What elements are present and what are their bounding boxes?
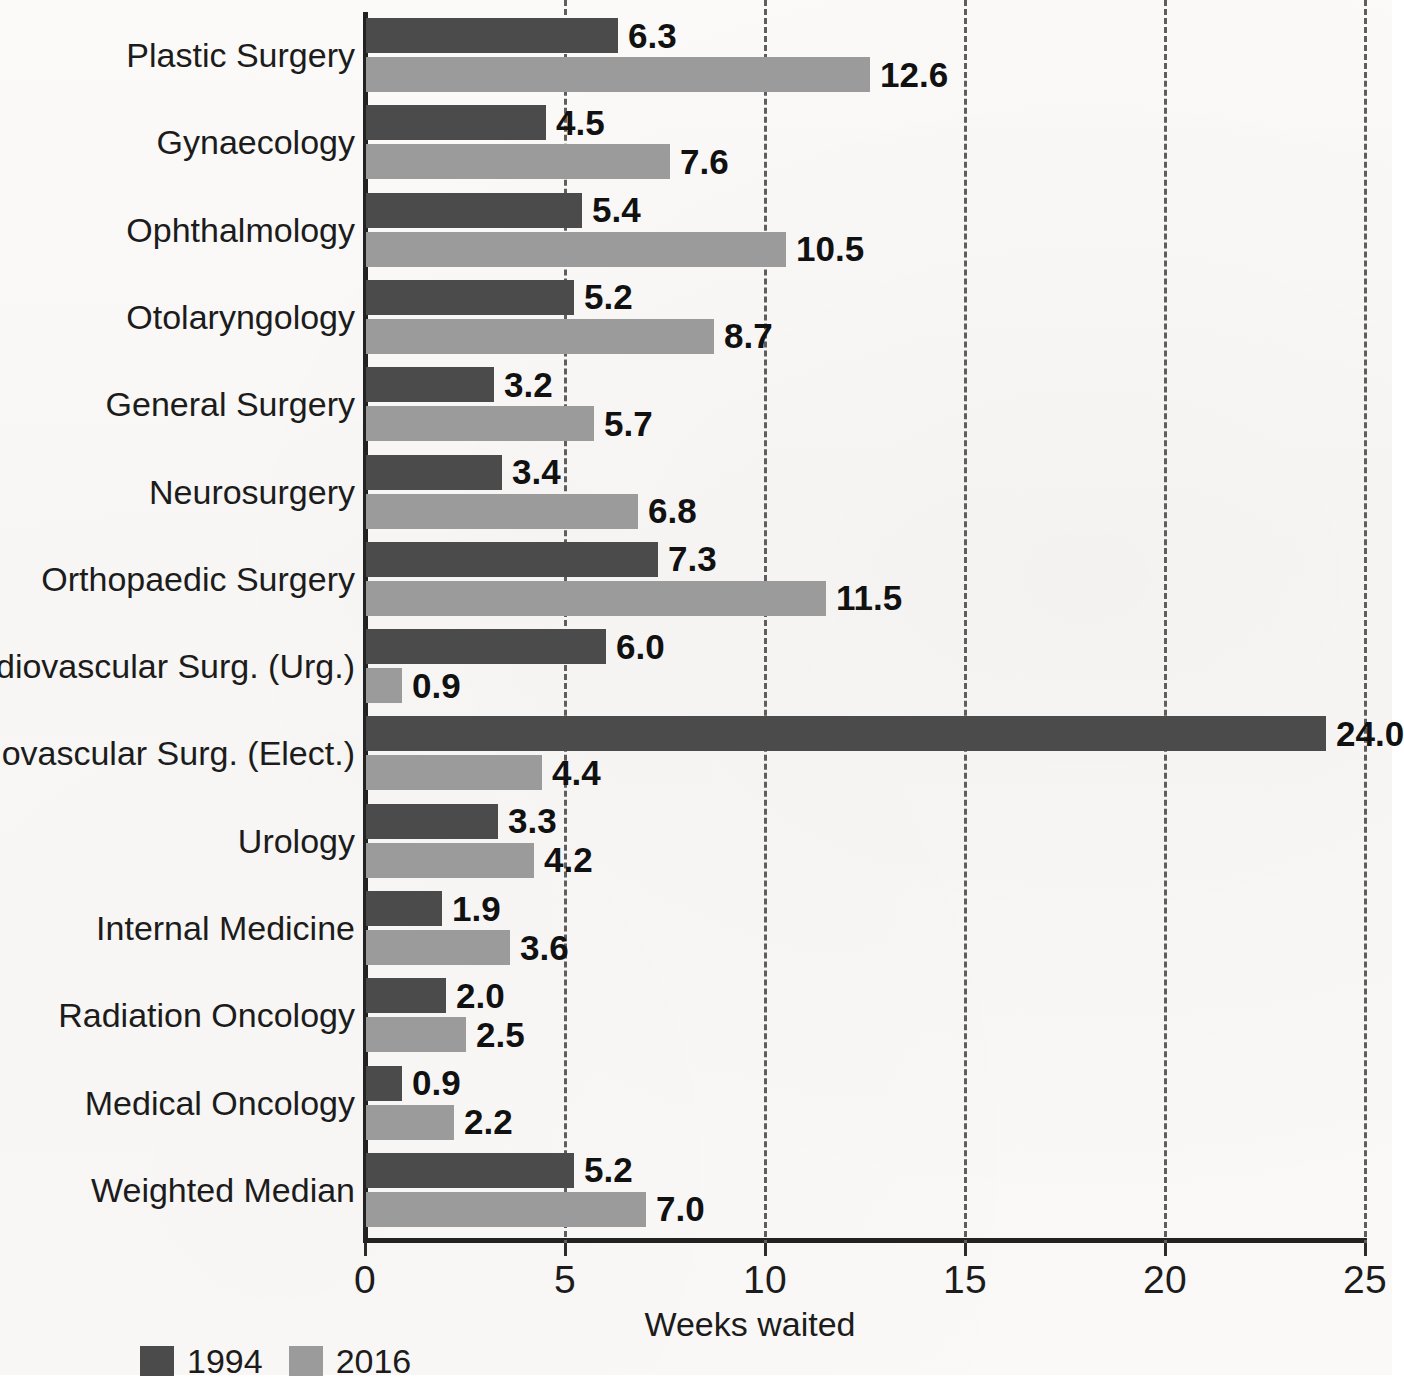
bar-2016 xyxy=(366,1192,646,1227)
legend-swatch xyxy=(289,1346,323,1376)
bar-value-label: 0.9 xyxy=(412,1065,461,1100)
bar-group: Urology3.34.2 xyxy=(0,804,1392,878)
bar-value-label: 12.6 xyxy=(880,57,948,92)
bar-value-label: 4.2 xyxy=(544,842,593,877)
gridline-5 xyxy=(564,0,567,1246)
x-axis-title: Weeks waited xyxy=(0,1305,1392,1344)
bar-1994 xyxy=(366,978,446,1013)
category-label: Plastic Surgery xyxy=(0,38,355,72)
bar-value-label: 3.3 xyxy=(508,803,557,838)
tick-0 xyxy=(364,1243,367,1256)
legend-item[interactable]: 1994 xyxy=(140,1344,263,1378)
category-label: Radiation Oncology xyxy=(0,998,355,1032)
category-label: Neurosurgery xyxy=(0,475,355,509)
bar-group: General Surgery3.25.7 xyxy=(0,367,1392,441)
bar-group: Otolaryngology5.28.7 xyxy=(0,280,1392,354)
bar-value-label: 5.7 xyxy=(604,406,653,441)
bar-group: Plastic Surgery6.312.6 xyxy=(0,18,1392,92)
tick-5 xyxy=(564,1243,567,1256)
x-tick-label: 10 xyxy=(743,1258,787,1302)
bar-value-label: 7.3 xyxy=(668,541,717,576)
bar-1994 xyxy=(366,367,494,402)
bar-1994 xyxy=(366,455,502,490)
bar-2016 xyxy=(366,843,534,878)
bar-2016 xyxy=(366,57,870,92)
bar-value-label: 3.6 xyxy=(520,930,569,965)
category-label: Gynaecology xyxy=(0,125,355,159)
bar-2016 xyxy=(366,319,714,354)
bar-1994 xyxy=(366,542,658,577)
x-tick-label: 20 xyxy=(1143,1258,1187,1302)
bar-group: Cardiovascular Surg. (Elect.)24.04.4 xyxy=(0,716,1392,790)
x-tick-label: 5 xyxy=(554,1258,576,1302)
bar-value-label: 3.2 xyxy=(504,367,553,402)
bar-group: Cardiovascular Surg. (Urg.)6.00.9 xyxy=(0,629,1392,703)
bar-value-label: 7.0 xyxy=(656,1191,705,1226)
bar-group: Neurosurgery3.46.8 xyxy=(0,455,1392,529)
gridline-20 xyxy=(1164,0,1167,1246)
category-label: Internal Medicine xyxy=(0,911,355,945)
bar-group: Medical Oncology0.92.2 xyxy=(0,1066,1392,1140)
bar-value-label: 24.0 xyxy=(1336,716,1404,751)
bar-1994 xyxy=(366,1153,574,1188)
bar-value-label: 5.4 xyxy=(592,192,641,227)
bar-value-label: 10.5 xyxy=(796,231,864,266)
legend-swatch xyxy=(140,1346,174,1376)
bar-1994 xyxy=(366,629,606,664)
category-label: Urology xyxy=(0,824,355,858)
bar-1994 xyxy=(366,280,574,315)
category-label: Cardiovascular Surg. (Elect.) xyxy=(0,736,355,770)
bar-value-label: 5.2 xyxy=(584,1152,633,1187)
category-label: Weighted Median xyxy=(0,1173,355,1207)
bar-1994 xyxy=(366,891,442,926)
x-tick-label: 0 xyxy=(354,1258,376,1302)
category-label: Otolaryngology xyxy=(0,300,355,334)
gridline-15 xyxy=(964,0,967,1246)
gridline-10 xyxy=(764,0,767,1246)
bar-1994 xyxy=(366,105,546,140)
bar-group: Radiation Oncology2.02.5 xyxy=(0,978,1392,1052)
bar-value-label: 6.8 xyxy=(648,493,697,528)
tick-15 xyxy=(964,1243,967,1256)
bar-value-label: 1.9 xyxy=(452,891,501,926)
bar-2016 xyxy=(366,668,402,703)
bar-value-label: 7.6 xyxy=(680,144,729,179)
tick-20 xyxy=(1164,1243,1167,1256)
bar-2016 xyxy=(366,232,786,267)
bar-value-label: 6.0 xyxy=(616,629,665,664)
x-tick-label: 15 xyxy=(943,1258,987,1302)
chart-legend: 19942016 xyxy=(140,1344,411,1378)
bar-group: Internal Medicine1.93.6 xyxy=(0,891,1392,965)
category-label: Cardiovascular Surg. (Urg.) xyxy=(0,649,355,683)
bar-value-label: 5.2 xyxy=(584,279,633,314)
legend-item[interactable]: 2016 xyxy=(289,1344,412,1378)
legend-label: 1994 xyxy=(187,1344,263,1378)
bar-2016 xyxy=(366,494,638,529)
bar-2016 xyxy=(366,755,542,790)
category-label: Orthopaedic Surgery xyxy=(0,562,355,596)
bar-2016 xyxy=(366,1105,454,1140)
bar-1994 xyxy=(366,716,1326,751)
bar-2016 xyxy=(366,144,670,179)
category-label: Medical Oncology xyxy=(0,1086,355,1120)
bar-value-label: 6.3 xyxy=(628,18,677,53)
bar-value-label: 2.5 xyxy=(476,1017,525,1052)
bar-1994 xyxy=(366,193,582,228)
bar-2016 xyxy=(366,581,826,616)
bar-value-label: 2.2 xyxy=(464,1104,513,1139)
bar-1994 xyxy=(366,804,498,839)
bar-value-label: 8.7 xyxy=(724,318,773,353)
tick-25 xyxy=(1364,1243,1367,1256)
bar-group: Orthopaedic Surgery7.311.5 xyxy=(0,542,1392,616)
bar-value-label: 3.4 xyxy=(512,454,561,489)
bar-group: Gynaecology4.57.6 xyxy=(0,105,1392,179)
x-axis-title-text: Weeks waited xyxy=(644,1305,855,1343)
x-tick-label: 25 xyxy=(1343,1258,1387,1302)
x-axis-line xyxy=(363,1238,1367,1243)
bar-2016 xyxy=(366,406,594,441)
bar-value-label: 4.5 xyxy=(556,105,605,140)
category-label: General Surgery xyxy=(0,387,355,421)
bar-value-label: 11.5 xyxy=(836,580,902,615)
bar-1994 xyxy=(366,1066,402,1101)
